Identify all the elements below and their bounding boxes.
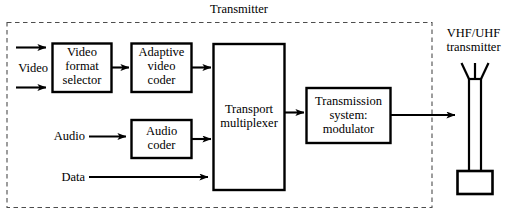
block-label-video-format-selector: Video format selector: [53, 45, 112, 87]
antenna-label-vhf-uhf-transmitter: VHF/UHF transmitter: [436, 26, 511, 55]
block-label-transport-multiplexer: Transport multiplexer: [211, 102, 288, 130]
block-label-adaptive-video-coder: Adaptive video coder: [132, 45, 192, 87]
antenna-mast: [469, 79, 481, 172]
antenna-prong-right: [481, 63, 489, 79]
antenna-base: [458, 171, 493, 194]
block-label-transmission-system-modulator: Transmission system: modulator: [307, 94, 391, 136]
block-diagram: Transmitter Video Audio Data Video forma…: [0, 0, 511, 215]
transmitter-group-title: Transmitter: [179, 2, 299, 16]
input-label-audio: Audio: [40, 129, 85, 143]
input-label-video: Video: [8, 61, 48, 75]
block-label-audio-coder: Audio coder: [132, 124, 192, 152]
input-label-data: Data: [40, 170, 85, 184]
antenna-prong-left: [462, 63, 470, 79]
